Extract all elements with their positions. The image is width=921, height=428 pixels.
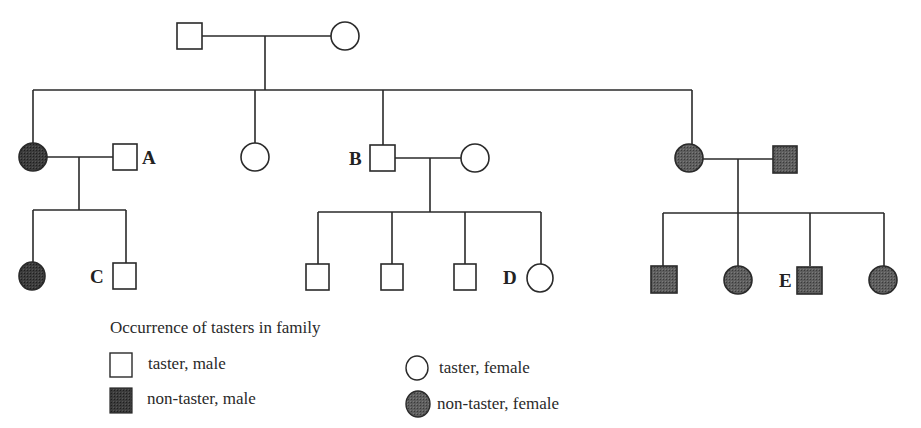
gen3-male-taster-3 <box>306 264 329 290</box>
gen3-female-nontaster-1 <box>19 262 45 290</box>
label-C: C <box>90 266 104 287</box>
gen3-male-taster-4 <box>381 264 403 290</box>
gen2-female-nontaster-1 <box>19 143 47 171</box>
legend-nontaster-male-label: non-taster, male <box>147 389 256 408</box>
male-A-taster <box>113 144 137 170</box>
gen2-female-taster-2 <box>241 143 269 171</box>
gen1-female-taster <box>331 22 359 50</box>
legend-nontaster-male-icon <box>110 388 132 413</box>
label-A: A <box>142 147 156 168</box>
male-B-taster <box>370 145 395 171</box>
gen1-male-taster <box>177 23 202 49</box>
male-E-nontaster <box>797 267 822 294</box>
label-B: B <box>349 148 362 169</box>
legend-taster-male-icon <box>110 353 132 377</box>
gen3-female-nontaster-10 <box>869 266 897 294</box>
label-E: E <box>779 270 792 291</box>
gen2-wife-of-B-taster <box>461 144 489 172</box>
gen3-male-nontaster-7 <box>651 266 677 293</box>
connector-lines <box>33 36 884 266</box>
pedigree-chart: A B C D E Occurrence of tasters in famil… <box>0 0 921 428</box>
legend-taster-male-label: taster, male <box>148 354 226 373</box>
legend-nontaster-female-label: non-taster, female <box>437 394 559 413</box>
gen2-husband-nontaster <box>773 146 797 173</box>
legend-taster-female-icon <box>406 356 428 380</box>
gen3-male-taster-5 <box>454 264 476 290</box>
gen2-female-nontaster-4 <box>675 144 703 172</box>
label-D: D <box>503 267 517 288</box>
legend-taster-female-label: taster, female <box>439 358 530 377</box>
legend: Occurrence of tasters in family taster, … <box>110 318 559 417</box>
legend-title: Occurrence of tasters in family <box>110 318 321 337</box>
male-C-taster <box>113 263 136 289</box>
female-D-taster <box>527 264 553 292</box>
gen3-female-nontaster-8 <box>724 266 752 294</box>
legend-nontaster-female-icon <box>406 391 430 417</box>
